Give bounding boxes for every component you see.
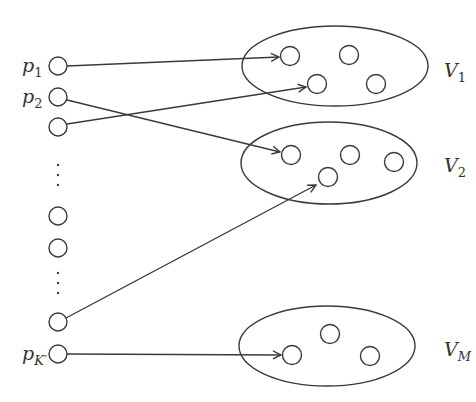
left-label-p1: p1 (22, 54, 42, 80)
group-ellipse (242, 26, 428, 106)
groups-layer: V1V2VM (239, 26, 472, 386)
group-label-vm: VM (444, 338, 472, 364)
left-node-n3 (49, 118, 67, 136)
vertical-ellipsis-dot (57, 282, 59, 284)
left-node-n6 (49, 313, 67, 331)
left-nodes-layer: p1p2pK′ (22, 54, 67, 368)
group-label-v1: V1 (444, 59, 466, 85)
group-vm: VM (239, 306, 472, 386)
bipartite-assignment-diagram: V1V2VM p1p2pK′ (0, 0, 476, 402)
left-node-pK (49, 345, 67, 363)
edges-layer (66, 57, 316, 355)
group-node (385, 153, 404, 172)
group-label-v2: V2 (444, 154, 466, 180)
edge-arrow-n6 (66, 185, 316, 318)
group-node (283, 346, 302, 365)
group-node (308, 75, 327, 94)
edge-arrow-p1 (67, 57, 279, 66)
left-node-n4 (49, 207, 67, 225)
group-v2: V2 (241, 122, 466, 204)
group-node (321, 325, 340, 344)
vertical-ellipsis-dot (57, 292, 59, 294)
group-node (367, 75, 386, 94)
group-node (340, 46, 359, 65)
group-node (282, 146, 301, 165)
group-node (341, 146, 360, 165)
edge-arrow-n3 (67, 87, 306, 124)
vertical-ellipsis-dot (57, 272, 59, 274)
group-node (319, 168, 338, 187)
vertical-ellipsis-dot (57, 164, 59, 166)
edge-arrow-pK (67, 354, 281, 355)
left-label-p2: p2 (22, 85, 42, 111)
group-node (361, 347, 380, 366)
left-node-p2 (49, 88, 67, 106)
vertical-ellipsis-dot (57, 184, 59, 186)
left-label-pK: pK′ (22, 342, 47, 368)
vertical-ellipsis-dot (57, 174, 59, 176)
group-node (281, 47, 300, 66)
group-v1: V1 (242, 26, 466, 106)
left-node-n5 (49, 239, 67, 257)
left-node-p1 (49, 57, 67, 75)
group-ellipse (239, 306, 415, 386)
